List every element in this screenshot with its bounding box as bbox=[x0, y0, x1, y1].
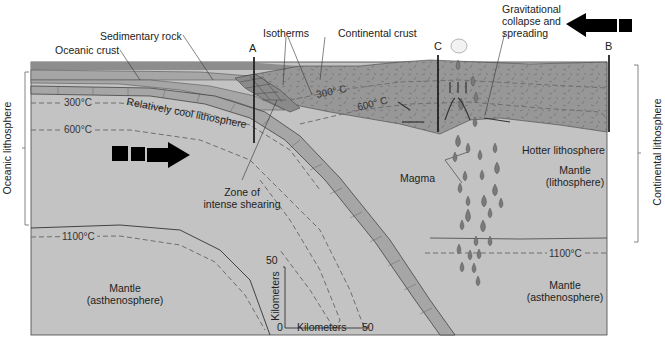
isotherm-label-600-left: 600°C bbox=[62, 124, 94, 135]
label-oceanic-crust: Oceanic crust bbox=[55, 44, 119, 56]
label-mantle-asthenosphere-right-2: (asthenosphere) bbox=[515, 291, 615, 303]
continental-lithosphere-bracket bbox=[634, 65, 641, 242]
isotherm-label-1100-right: 1100°C bbox=[547, 248, 584, 259]
label-mantle-lithosphere-1: Mantle bbox=[540, 164, 610, 176]
label-mantle-asthenosphere-left-1: Mantle bbox=[75, 282, 175, 294]
section-marker-c: C bbox=[434, 40, 442, 52]
label-mantle-asthenosphere-left-2: (asthenosphere) bbox=[75, 294, 175, 306]
label-continental-lithosphere: Continental lithosphere bbox=[651, 92, 663, 212]
label-oceanic-lithosphere: Oceanic lithosphere bbox=[1, 98, 13, 198]
isotherm-label-1100-left: 1100°C bbox=[60, 231, 97, 242]
label-mantle-lithosphere-2: (lithosphere) bbox=[540, 176, 610, 188]
scale-horizontal-max: 50 bbox=[362, 321, 374, 333]
label-collapse-and: collapse and bbox=[502, 15, 561, 27]
isotherm-label-300-left: 300°C bbox=[62, 97, 94, 108]
scale-origin: 0 bbox=[277, 321, 283, 333]
scale-horizontal-label: Kilometers bbox=[297, 321, 347, 333]
label-mantle-asthenosphere-right-1: Mantle bbox=[515, 279, 615, 291]
label-sedimentary-rock: Sedimentary rock bbox=[100, 30, 182, 42]
label-intense-shearing: intense shearing bbox=[195, 198, 289, 210]
label-continental-crust: Continental crust bbox=[338, 27, 417, 39]
volcanic-plume-icon bbox=[451, 39, 467, 53]
section-marker-b: B bbox=[605, 40, 612, 52]
label-isotherms: Isotherms bbox=[263, 27, 309, 39]
label-magma: Magma bbox=[400, 172, 435, 184]
plate-motion-arrow-left bbox=[566, 13, 632, 37]
label-gravitational: Gravitational bbox=[502, 3, 561, 15]
label-spreading: spreading bbox=[502, 27, 548, 39]
section-marker-a: A bbox=[249, 42, 256, 54]
label-zone-of: Zone of bbox=[202, 186, 282, 198]
label-hotter-lithosphere: Hotter lithosphere bbox=[522, 144, 605, 156]
oceanic-lithosphere-bracket bbox=[22, 72, 29, 225]
